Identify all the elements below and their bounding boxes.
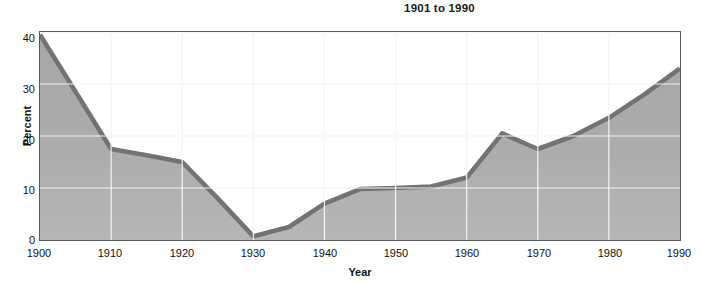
plot-area bbox=[39, 31, 681, 241]
x-tick-label-1900: 1900 bbox=[17, 247, 61, 259]
x-tick-label-1960: 1960 bbox=[445, 247, 489, 259]
x-tick-label-1910: 1910 bbox=[88, 247, 132, 259]
x-tick-label-1930: 1930 bbox=[231, 247, 275, 259]
y-tick-label-0: 0 bbox=[11, 235, 35, 246]
x-tick-label-1940: 1940 bbox=[303, 247, 347, 259]
y-axis-title: Percent bbox=[21, 86, 33, 166]
x-axis-title: Year bbox=[39, 266, 681, 278]
x-tick-label-1970: 1970 bbox=[517, 247, 561, 259]
x-tick-label-1980: 1980 bbox=[588, 247, 632, 259]
x-tick-label-1920: 1920 bbox=[160, 247, 204, 259]
y-tick-label-10: 10 bbox=[11, 185, 35, 196]
area-chart-svg bbox=[40, 32, 680, 240]
chart-figure: 1901 to 1990 Percent 40 30 20 10 0 1900 … bbox=[0, 0, 701, 286]
y-tick-label-30: 30 bbox=[11, 84, 35, 95]
y-tick-label-20: 20 bbox=[11, 135, 35, 146]
chart-title: 1901 to 1990 bbox=[0, 0, 701, 16]
y-tick-label-40: 40 bbox=[11, 33, 35, 44]
x-tick-label-1990: 1990 bbox=[657, 247, 701, 259]
x-tick-label-1950: 1950 bbox=[374, 247, 418, 259]
